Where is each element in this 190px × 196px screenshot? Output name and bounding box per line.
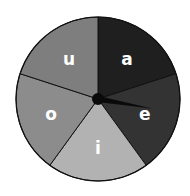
section-label-a: a [121,49,132,69]
section-label-o: o [45,104,57,124]
spinner-wheel: a e i o u [0,0,190,196]
spinner-hub [92,93,104,105]
section-label-u: u [63,49,75,69]
section-label-i: i [95,138,101,158]
